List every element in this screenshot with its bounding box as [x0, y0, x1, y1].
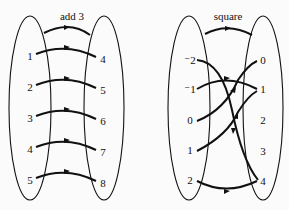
- domain-label: ⁻1: [184, 83, 195, 95]
- codomain-oval: [243, 16, 283, 200]
- codomain-label: 4: [100, 53, 106, 65]
- square-title: square: [214, 10, 243, 22]
- mapping-arrow: [36, 111, 96, 119]
- codomain-labels: 0 1 2 3 4: [260, 54, 266, 187]
- domain-label: 2: [27, 81, 33, 93]
- domain-labels: ⁻2 ⁻1 0 1 2: [184, 54, 195, 186]
- codomain-labels: 4 5 6 7 8: [100, 53, 106, 189]
- codomain-label: 4: [260, 175, 266, 187]
- codomain-label: 8: [100, 177, 106, 189]
- domain-label: 1: [27, 50, 33, 62]
- domain-label: 2: [187, 174, 193, 186]
- add-3-diagram: add 3 1 2 3 4 5 4 5 6 7 8: [9, 10, 124, 200]
- domain-labels: 1 2 3 4 5: [27, 50, 33, 186]
- domain-label: 3: [27, 112, 33, 124]
- codomain-label: 2: [260, 114, 266, 126]
- codomain-label: 1: [260, 83, 266, 95]
- codomain-oval: [84, 16, 124, 200]
- mapping-arrow: [36, 80, 96, 88]
- domain-oval: [168, 16, 210, 200]
- codomain-label: 7: [100, 146, 106, 158]
- codomain-label: 3: [260, 145, 266, 157]
- codomain-label: 5: [100, 84, 106, 96]
- domain-label: 5: [27, 174, 33, 186]
- mapping-arrow: [36, 142, 96, 150]
- add-3-title: add 3: [60, 10, 85, 22]
- mapping-arrow: [197, 81, 257, 90]
- square-diagram: square ⁻2 ⁻1 0 1 2 0 1 2 3 4: [168, 10, 283, 200]
- codomain-label: 0: [260, 54, 266, 66]
- function-mapping-diagrams: add 3 1 2 3 4 5 4 5 6 7 8: [0, 0, 289, 210]
- domain-label: 4: [27, 143, 33, 155]
- domain-label: ⁻2: [184, 54, 195, 66]
- domain-label: 0: [187, 114, 193, 126]
- domain-label: 1: [187, 144, 193, 156]
- title-arrow: [205, 28, 252, 35]
- domain-oval: [9, 16, 51, 200]
- mapping-arrow: [197, 181, 257, 189]
- codomain-label: 6: [100, 115, 106, 127]
